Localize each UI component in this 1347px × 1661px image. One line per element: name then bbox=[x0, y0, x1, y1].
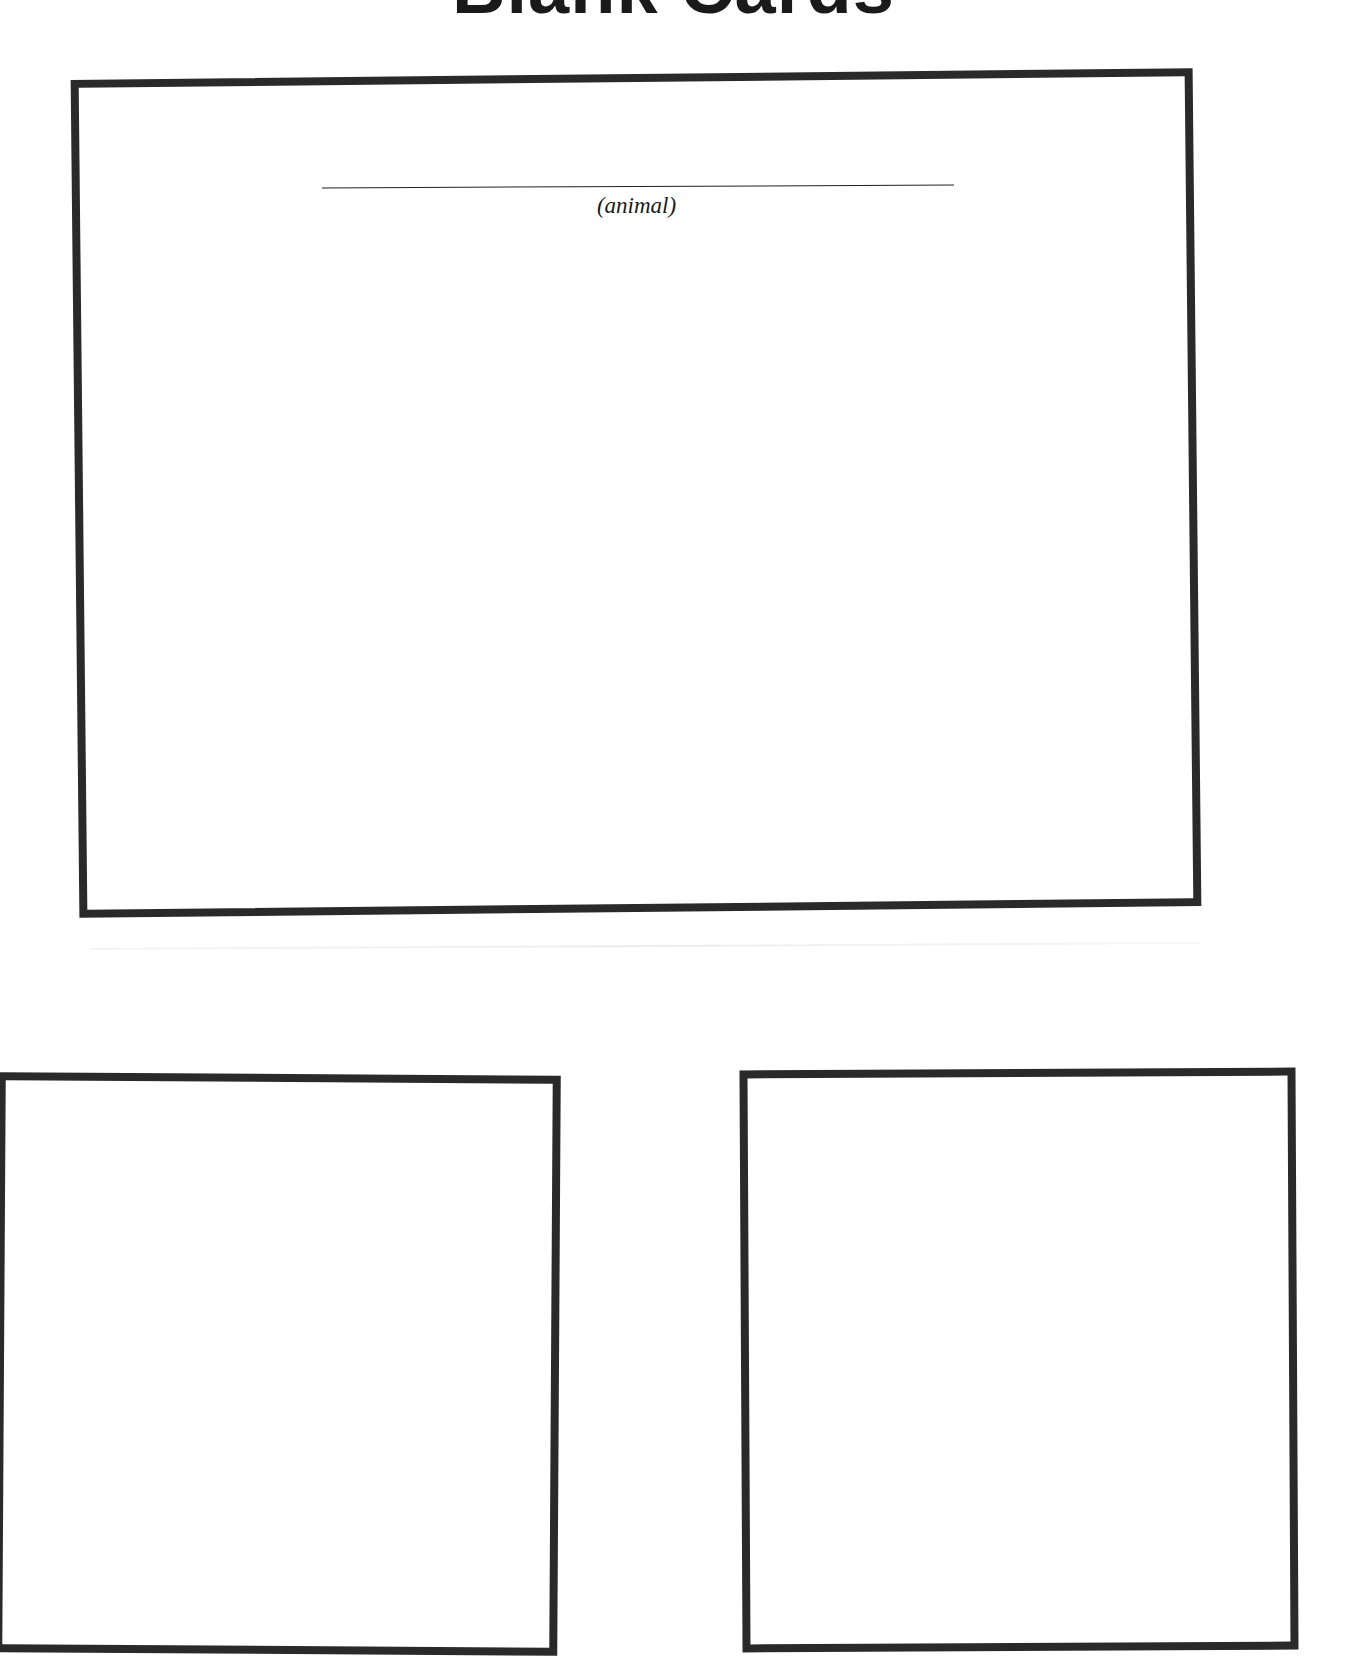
scan-artifact-line bbox=[90, 942, 1200, 950]
page-title: Blank Cards bbox=[0, 0, 1347, 28]
bottom-right-card-box bbox=[739, 1068, 1298, 1653]
bottom-left-card-box bbox=[0, 1072, 561, 1655]
animal-caption-label: (animal) bbox=[0, 193, 1347, 219]
animal-caption-text: (animal) bbox=[597, 193, 676, 219]
